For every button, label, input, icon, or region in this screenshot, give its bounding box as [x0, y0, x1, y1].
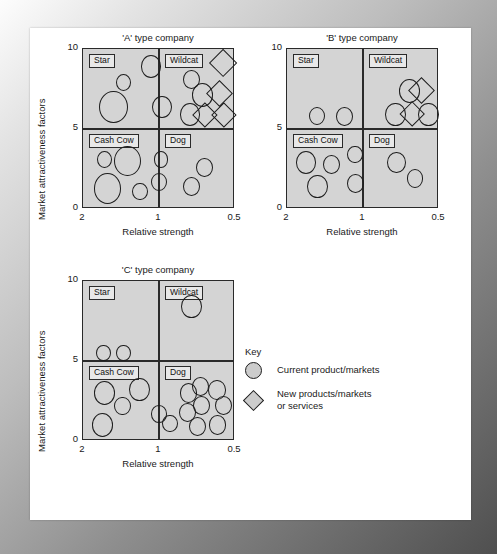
x-tick-05-c: 0.5: [222, 443, 246, 454]
x-axis-label-b: Relative strength: [312, 226, 412, 237]
circle-icon: [152, 96, 171, 118]
circle-icon: [154, 151, 169, 168]
x-tick-05-b: 0.5: [426, 211, 450, 222]
x-tick-2-a: 2: [70, 211, 94, 222]
circle-icon: [196, 158, 213, 177]
legend-label-new-line1: New products/markets: [277, 388, 422, 400]
chart-panel-a: 'A' type company Market attractiveness f…: [30, 28, 262, 263]
quadrant-label-dog-b: Dog: [369, 134, 395, 148]
quadrant-label-star-a: Star: [89, 54, 115, 68]
diamond-icon: [206, 80, 233, 107]
x-axis-label-c: Relative strength: [108, 458, 208, 469]
quadrant-label-cash-cow-a: Cash Cow: [89, 134, 139, 148]
circle-icon: [151, 173, 167, 191]
legend-label-new-line2: or services: [277, 400, 422, 412]
chart-title-c: 'C' type company: [78, 264, 238, 275]
circle-icon: [307, 175, 328, 198]
circle-icon: [193, 396, 210, 415]
diamond-icon: [209, 49, 238, 78]
legend-label-current: Current product/markets: [277, 364, 422, 376]
circle-icon: [347, 146, 363, 164]
quadrant-label-wildcat-b: Wildcat: [369, 54, 407, 68]
y-tick-10-b: 10: [250, 41, 282, 52]
outer-frame: 'A' type company Market attractiveness f…: [0, 0, 497, 554]
plot-area-a: Star Wildcat Cash Cow Dog: [82, 48, 234, 208]
chart-panel-c: 'C' type company Market attractiveness f…: [30, 260, 262, 495]
circle-icon: [336, 107, 353, 126]
circle-icon: [189, 417, 207, 437]
circle-icon: [181, 295, 202, 318]
circle-icon: [129, 378, 150, 401]
circle-icon: [162, 415, 178, 433]
quadrant-label-cash-cow-b: Cash Cow: [293, 134, 343, 148]
y-tick-5-c: 5: [46, 353, 78, 364]
x-tick-1-a: 1: [146, 211, 170, 222]
circle-icon: [215, 396, 232, 415]
chart-title-b: 'B' type company: [282, 32, 442, 43]
circle-icon: [323, 155, 340, 174]
quadrant-label-star-b: Star: [293, 54, 319, 68]
circle-icon: [97, 151, 112, 168]
y-tick-10-a: 10: [46, 41, 78, 52]
diamond-icon: [243, 390, 264, 411]
circle-icon: [132, 183, 148, 201]
circle-icon: [407, 169, 423, 187]
quadrant-label-dog-a: Dog: [165, 134, 191, 148]
quadrant-divider-horizontal-b: [287, 128, 437, 129]
circle-icon: [309, 107, 325, 125]
quadrant-label-wildcat-a: Wildcat: [165, 54, 203, 68]
circle-icon: [114, 397, 130, 415]
x-tick-2-c: 2: [70, 443, 94, 454]
circle-icon: [99, 91, 128, 123]
circle-icon: [94, 173, 121, 204]
circle-icon: [94, 381, 115, 405]
circle-icon: [92, 413, 113, 437]
circle-icon: [245, 362, 262, 379]
plot-area-b: Star Wildcat Cash Cow Dog: [286, 48, 438, 208]
plot-area-c: Star Wildcat Cash Cow Dog: [82, 280, 234, 440]
circle-icon: [192, 377, 210, 397]
circle-icon: [296, 151, 316, 174]
diamond-icon: [211, 102, 236, 127]
circle-icon: [183, 177, 201, 197]
circle-icon: [387, 152, 406, 173]
legend-title: Key: [245, 346, 261, 357]
chart-title-a: 'A' type company: [78, 32, 238, 43]
circle-icon: [114, 146, 141, 176]
circle-icon: [209, 415, 226, 434]
x-tick-1-b: 1: [350, 211, 374, 222]
quadrant-label-dog-c: Dog: [165, 366, 191, 380]
figure-page: 'A' type company Market attractiveness f…: [30, 28, 471, 520]
x-tick-1-c: 1: [146, 443, 170, 454]
circle-icon: [116, 345, 131, 362]
chart-panel-b: 'B' type company Star Wildcat Cash Cow D…: [234, 28, 466, 263]
quadrant-divider-horizontal-a: [83, 128, 233, 129]
y-tick-5-b: 5: [250, 121, 282, 132]
legend-key: Key Current product/markets New products…: [245, 346, 425, 438]
circle-icon: [116, 74, 132, 92]
x-tick-2-b: 2: [274, 211, 298, 222]
y-tick-5-a: 5: [46, 121, 78, 132]
circle-icon: [96, 345, 111, 362]
x-axis-label-a: Relative strength: [108, 226, 208, 237]
quadrant-label-cash-cow-c: Cash Cow: [89, 366, 139, 380]
y-tick-10-c: 10: [46, 273, 78, 284]
quadrant-label-star-c: Star: [89, 286, 115, 300]
